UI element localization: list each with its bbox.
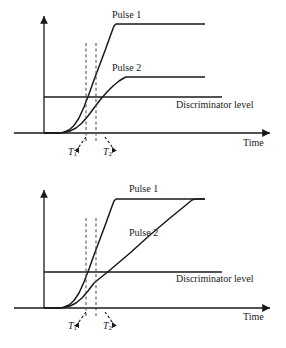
pulse-1-curve: [44, 199, 205, 308]
pulse-2-curve: [44, 199, 205, 308]
t1-leader-arrow: [79, 137, 86, 147]
pulse-1-label: Pulse 1: [129, 183, 158, 194]
discriminator-level-label: Discriminator level: [176, 273, 253, 284]
panel-top: Pulse 1 Pulse 2 Discriminator level Time…: [0, 0, 286, 174]
t1-subscript: 1: [74, 150, 78, 158]
pulse-2-label: Pulse 2: [129, 227, 158, 238]
pulse-1-label: Pulse 1: [112, 9, 141, 20]
t2-subscript: 2: [109, 324, 113, 332]
t1-leader-arrow: [79, 312, 86, 322]
t2-label: T2: [103, 146, 112, 160]
discriminator-level-label: Discriminator level: [176, 99, 253, 110]
pulse-2-label: Pulse 2: [112, 62, 141, 73]
t1-subscript: 1: [74, 324, 78, 332]
t1-label: T1: [68, 146, 77, 160]
time-axis-label: Time: [243, 311, 264, 322]
pulse-timing-figure: Pulse 1 Pulse 2 Discriminator level Time…: [0, 0, 286, 348]
time-axis-label: Time: [243, 137, 264, 148]
t2-subscript: 2: [109, 150, 113, 158]
t2-label: T2: [103, 320, 112, 334]
t1-label: T1: [68, 320, 77, 334]
panel-bottom: Pulse 1 Pulse 2 Discriminator level Time…: [0, 174, 286, 348]
